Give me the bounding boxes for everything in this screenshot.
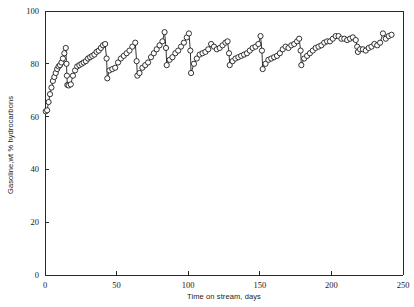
data-point	[299, 63, 304, 68]
y-tick-label-60: 60	[31, 112, 40, 122]
data-point	[188, 70, 193, 75]
data-point	[259, 48, 264, 53]
y-axis-ticks	[45, 11, 49, 275]
data-point	[353, 37, 358, 42]
data-point	[389, 32, 394, 37]
x-tick-label-100: 100	[182, 280, 195, 290]
y-tick-label-40: 40	[31, 164, 40, 174]
data-point	[186, 31, 191, 36]
data-point	[134, 59, 139, 64]
data-point	[260, 66, 265, 71]
y-axis-tick-labels: 020406080100	[26, 6, 39, 280]
data-point	[62, 51, 67, 56]
data-point	[380, 31, 385, 36]
series-markers-gasoline-yield	[43, 30, 394, 114]
x-tick-label-50: 50	[112, 280, 121, 290]
series-line-gasoline-yield	[46, 32, 392, 111]
data-point	[297, 36, 302, 41]
data-point	[163, 45, 168, 50]
data-point	[68, 82, 73, 87]
data-point	[162, 30, 167, 35]
data-point	[226, 51, 231, 56]
data-point	[70, 73, 75, 78]
data-point	[256, 41, 261, 46]
data-point	[105, 76, 110, 81]
data-point	[225, 39, 230, 44]
data-point	[137, 70, 142, 75]
y-tick-label-100: 100	[26, 6, 39, 16]
data-point	[49, 85, 54, 90]
x-tick-label-200: 200	[325, 280, 338, 290]
data-point	[191, 61, 196, 66]
x-tick-label-250: 250	[397, 280, 410, 290]
x-axis-ticks	[45, 271, 403, 275]
data-series-group	[43, 30, 394, 114]
y-tick-label-80: 80	[31, 59, 40, 69]
data-point	[113, 65, 118, 70]
data-point	[258, 33, 263, 38]
data-point	[160, 39, 165, 44]
data-point	[60, 56, 65, 61]
data-point	[164, 63, 169, 68]
data-point	[104, 56, 109, 61]
x-axis-tick-labels: 050100150200250	[43, 280, 410, 290]
data-point	[45, 108, 50, 113]
data-point	[47, 92, 52, 97]
data-point	[64, 61, 69, 66]
chart-figure: 050100150200250 020406080100 Time on str…	[0, 0, 414, 307]
x-axis-title: Time on stream, days	[187, 292, 261, 301]
data-point	[46, 99, 51, 104]
x-tick-label-0: 0	[43, 280, 47, 290]
data-point	[188, 48, 193, 53]
y-tick-label-20: 20	[31, 217, 40, 227]
data-point	[146, 60, 151, 65]
data-point	[181, 40, 186, 45]
data-point	[63, 45, 68, 50]
data-point	[206, 47, 211, 52]
data-point	[377, 40, 382, 45]
y-tick-label-0: 0	[35, 270, 39, 280]
data-point	[298, 48, 303, 53]
data-point	[103, 41, 108, 46]
y-axis-title: Gasoline,wt % hydrocarbons	[6, 96, 15, 194]
gasoline-yield-plot: 050100150200250 020406080100 Time on str…	[0, 0, 414, 307]
data-point	[64, 73, 69, 78]
data-point	[133, 40, 138, 45]
x-tick-label-150: 150	[253, 280, 266, 290]
